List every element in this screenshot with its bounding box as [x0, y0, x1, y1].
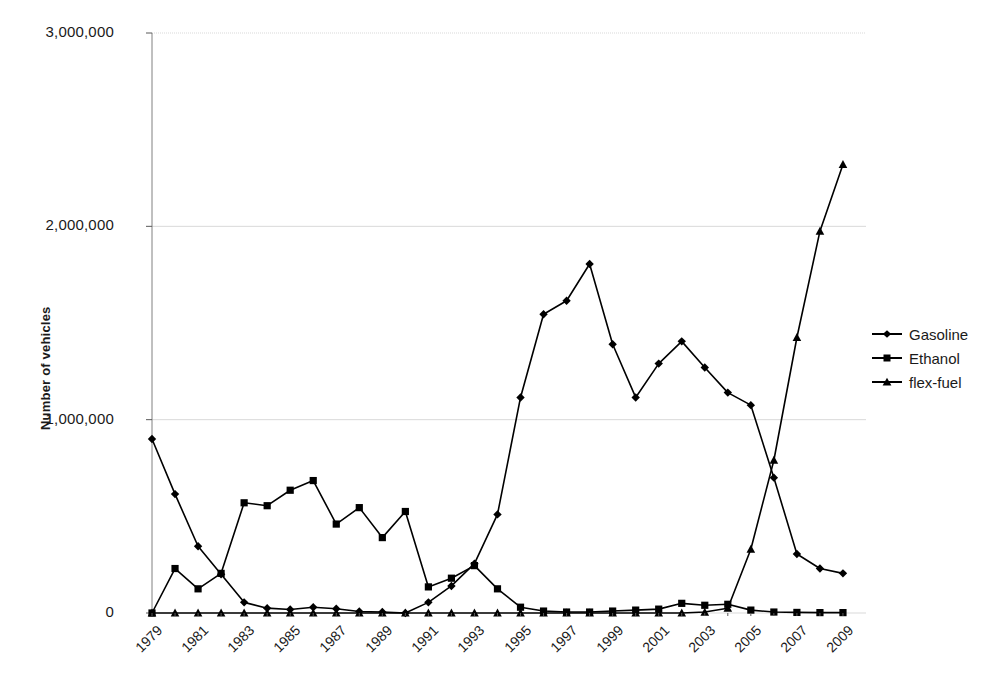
y-axis-tick-label: 2,000,000 — [0, 216, 128, 233]
y-axis-tick-label: 0 — [0, 603, 128, 620]
legend-item-gasoline[interactable]: Gasoline — [872, 322, 968, 346]
series-gasoline — [148, 260, 847, 617]
series-flex-fuel — [148, 160, 848, 617]
triangle-marker-icon — [872, 375, 902, 389]
legend-label-flex-fuel: flex-fuel — [909, 374, 962, 391]
series-ethanol — [148, 477, 846, 617]
plot-area — [0, 0, 995, 683]
legend-item-flex-fuel[interactable]: flex-fuel — [872, 370, 968, 394]
y-axis-tick-label: 1,000,000 — [0, 410, 128, 427]
square-marker-icon — [872, 351, 902, 365]
legend-label-gasoline: Gasoline — [909, 326, 968, 343]
legend-item-ethanol[interactable]: Ethanol — [872, 346, 968, 370]
y-axis-tick-label: 3,000,000 — [0, 23, 128, 40]
chart-figure: Number of vehicles 3,000,0002,000,0001,0… — [0, 0, 995, 683]
chart-legend: Gasoline Ethanol flex-fuel — [872, 322, 968, 394]
legend-label-ethanol: Ethanol — [909, 350, 960, 367]
diamond-marker-icon — [872, 327, 902, 341]
